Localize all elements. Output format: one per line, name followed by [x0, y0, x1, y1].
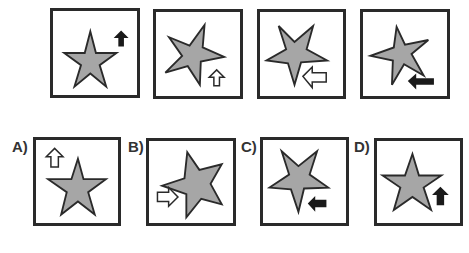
option-c[interactable] [260, 137, 349, 226]
sequence-box-3 [257, 9, 346, 99]
option-b-label: B) [128, 138, 144, 155]
arrow-left-icon [308, 196, 327, 212]
arrow-up-icon [114, 31, 129, 47]
star-icon [370, 27, 428, 85]
sequence-box-2 [153, 9, 243, 99]
option-d[interactable] [374, 138, 463, 226]
star-icon [162, 152, 222, 217]
sequence-box-4 [360, 9, 450, 99]
option-a-label: A) [12, 138, 28, 155]
arrow-up-icon [46, 148, 63, 167]
option-d-label: D) [354, 138, 370, 155]
arrow-up-icon [209, 70, 224, 86]
option-b[interactable] [146, 138, 236, 226]
star-icon [53, 11, 137, 95]
option-a[interactable] [33, 137, 121, 226]
option-c-label: C) [241, 138, 257, 155]
arrow-up-icon [432, 187, 449, 206]
star-icon [383, 154, 442, 210]
arrow-left-icon [303, 67, 326, 88]
sequence-box-1 [50, 8, 140, 98]
arrow-left-icon [408, 74, 434, 90]
